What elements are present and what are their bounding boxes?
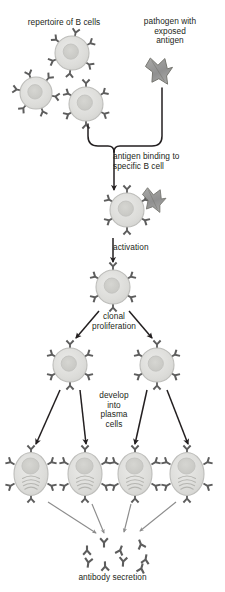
secreted-antibodies-group xyxy=(82,538,151,575)
b-cell-body xyxy=(69,87,103,121)
plasma-cell-2 xyxy=(58,445,111,503)
b-cell-repertoire-group xyxy=(11,27,110,129)
plasma-cell-3 xyxy=(108,445,161,503)
antibody-4 xyxy=(135,538,147,551)
arrow-secretion-3 xyxy=(124,504,131,532)
diagram-canvas xyxy=(0,0,225,592)
antibody-8 xyxy=(118,556,128,567)
plasma-cell-body xyxy=(118,453,152,496)
label-develop-into-plasma-cells: develop into plasma cells xyxy=(88,391,140,429)
antibody-6 xyxy=(83,557,94,568)
b-cell-top xyxy=(47,27,96,78)
plasma-cell-body xyxy=(68,453,102,496)
b-cell-body xyxy=(140,348,174,382)
b-cell-activation-diagram: repertoire of B cells pathogen with expo… xyxy=(0,0,225,592)
b-cell-clone-right xyxy=(133,340,181,390)
antibody-7 xyxy=(100,561,110,571)
antibody-3 xyxy=(114,544,126,557)
arrow-plasma-2 xyxy=(80,390,86,444)
b-cell-body xyxy=(110,193,144,227)
pathogen-antigen xyxy=(141,54,174,87)
b-cell-body xyxy=(55,36,89,70)
plasma-cell-1 xyxy=(4,445,57,503)
plasma-cell-body xyxy=(14,453,48,496)
b-cell-body xyxy=(53,348,87,382)
b-cell-nucleus xyxy=(28,85,42,99)
arrow-secretion-1 xyxy=(48,502,96,533)
antibody-1 xyxy=(82,545,91,555)
secretion-arrows xyxy=(48,502,176,533)
b-cell-left xyxy=(11,69,60,117)
label-antibody-secretion: antibody secretion xyxy=(52,573,173,583)
label-repertoire-of-b-cells: repertoire of B cells xyxy=(8,18,120,28)
b-cell-antigen-bound-group xyxy=(103,184,169,235)
arrow-secretion-4 xyxy=(140,502,176,531)
b-cell-clone-left xyxy=(46,340,94,390)
label-pathogen-with-exposed-antigen: pathogen with exposed antigen xyxy=(122,17,218,46)
label-clonal-proliferation: clonal proliferation xyxy=(82,312,146,331)
label-antigen-binding-to-specific-b-cell: antigen binding to specific B cell xyxy=(113,152,213,171)
antibody-2 xyxy=(99,538,108,548)
arrow-plasma-4 xyxy=(167,390,188,444)
arrow-secretion-2 xyxy=(92,504,104,533)
label-activation: activation xyxy=(113,243,185,253)
plasma-cell-body xyxy=(170,453,204,496)
plasma-cell-4 xyxy=(160,445,213,503)
b-cell-activated xyxy=(89,262,137,312)
b-cell-right xyxy=(62,79,110,129)
arrow-plasma-1 xyxy=(36,390,60,444)
b-cell-body xyxy=(96,270,130,304)
